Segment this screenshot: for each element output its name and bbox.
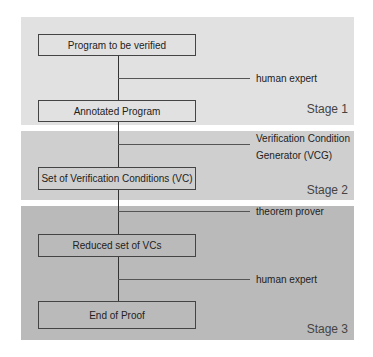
- branch-theorem-prover: [118, 211, 250, 212]
- box-annotated-program: Annotated Program: [38, 100, 196, 122]
- branch-vcg: [118, 144, 250, 145]
- transition-human-expert-2: human expert: [256, 271, 317, 288]
- stage-2-label: Stage 2: [307, 183, 348, 197]
- box-program-to-be-verified: Program to be verified: [38, 34, 196, 56]
- transition-theorem-prover: theorem prover: [256, 203, 324, 220]
- branch-human-expert-1: [118, 78, 250, 79]
- stage-3-label: Stage 3: [307, 322, 348, 336]
- stage-1-label: Stage 1: [307, 102, 348, 116]
- box-end-of-proof: End of Proof: [38, 301, 196, 329]
- box-reduced-set-of-vcs: Reduced set of VCs: [38, 234, 196, 257]
- transition-vcg-line2: Generator (VCG): [256, 147, 332, 164]
- box-set-of-vcs: Set of Verification Conditions (VC): [38, 167, 196, 190]
- transition-human-expert-1: human expert: [256, 70, 317, 87]
- transition-vcg-line1: Verification Condition: [256, 130, 350, 147]
- branch-human-expert-2: [118, 279, 250, 280]
